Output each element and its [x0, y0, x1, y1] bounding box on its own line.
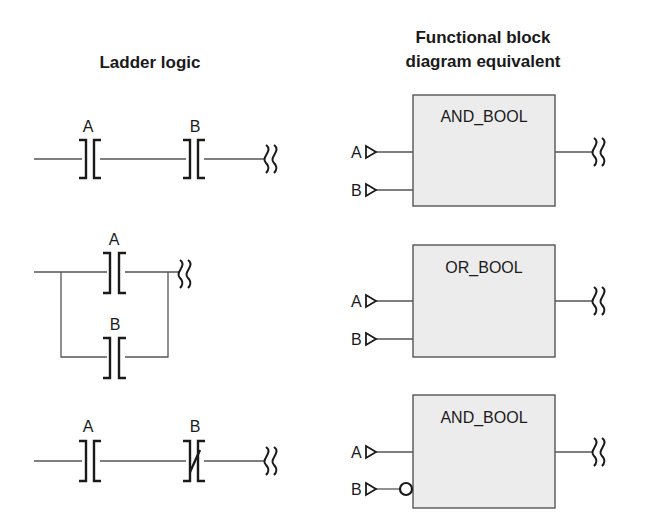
contact-label: B [190, 118, 201, 135]
negation-circle-icon [400, 483, 412, 495]
input-label-a: A [351, 444, 362, 461]
fbd-heading-line2: diagram equivalent [406, 52, 561, 71]
block-name: AND_BOOL [440, 108, 527, 126]
contact-label: A [83, 418, 94, 435]
break-squiggle-icon [592, 438, 604, 466]
no-contact-a: A [103, 231, 126, 293]
ladder-rung-1: A B [34, 118, 277, 178]
ladder-rung-2: A B [34, 231, 191, 378]
nc-contact-b: B [183, 418, 205, 481]
input-label-a: A [351, 293, 362, 310]
input-arrow-icon [366, 184, 376, 196]
contact-label: B [110, 316, 121, 333]
input-arrow-icon [366, 295, 376, 307]
input-arrow-icon [366, 446, 376, 458]
function-block-1: AND_BOOL A B [351, 95, 605, 206]
function-block-2: OR_BOOL A B [351, 245, 605, 357]
diagram-canvas: Ladder logic Functional block diagram eq… [0, 0, 648, 527]
fbd-heading-line1: Functional block [415, 28, 551, 47]
ladder-logic-heading: Ladder logic [99, 53, 200, 72]
function-block-3: AND_BOOL A B [351, 395, 605, 508]
input-arrow-icon [366, 333, 376, 345]
contact-label: A [109, 231, 120, 248]
input-label-b: B [351, 331, 362, 348]
contact-label: A [83, 118, 94, 135]
break-squiggle-icon [592, 138, 604, 166]
no-contact-b: B [183, 118, 205, 178]
ladder-rung-3: A B [34, 418, 277, 481]
break-squiggle-icon [178, 260, 190, 288]
contact-label: B [190, 418, 201, 435]
no-contact-b: B [103, 316, 126, 378]
input-label-b: B [351, 182, 362, 199]
no-contact-a: A [79, 118, 101, 178]
break-squiggle-icon [264, 447, 276, 475]
break-squiggle-icon [264, 145, 276, 173]
input-arrow-icon [366, 146, 376, 158]
input-arrow-icon [366, 483, 376, 495]
input-label-a: A [351, 144, 362, 161]
block-name: OR_BOOL [445, 259, 522, 277]
input-label-b: B [351, 481, 362, 498]
no-contact-a: A [79, 418, 101, 481]
block-name: AND_BOOL [440, 409, 527, 427]
break-squiggle-icon [592, 287, 604, 315]
